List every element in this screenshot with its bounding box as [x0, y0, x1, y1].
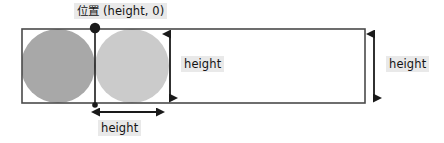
- height-label-right: height: [386, 56, 429, 72]
- height-label-bottom: height: [98, 120, 141, 136]
- diagram-canvas: 位置 (height, 0) height height height: [0, 0, 444, 143]
- circle-right: [95, 29, 169, 103]
- position-marker-dot-bottom: [92, 102, 98, 108]
- circle-left: [21, 29, 95, 103]
- height-label-inner: height: [181, 56, 224, 72]
- position-label: 位置 (height, 0): [74, 3, 167, 19]
- position-marker-dot: [90, 23, 100, 33]
